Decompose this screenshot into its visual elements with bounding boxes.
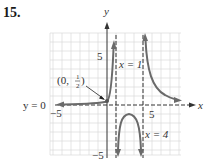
tick-pos5-x: 5 (149, 108, 155, 120)
tick-pos5-y: 5 (97, 50, 103, 62)
y-axis-arrow-icon (105, 22, 110, 29)
point-y-intercept (105, 99, 109, 103)
graph: y x y = 0 −5 5 5 −5 x = 1 x = 4 (0, 1 2 … (0, 0, 216, 162)
x-eq-4-label: x = 4 (144, 128, 169, 140)
tick-neg5-y: −5 (92, 149, 104, 161)
tick-neg5-x: −5 (50, 107, 62, 119)
svg-text:(0,: (0, (57, 74, 69, 87)
y-eq-0-label: y = 0 (23, 99, 46, 111)
x-axis-label: x (197, 99, 203, 111)
svg-text:2: 2 (76, 82, 80, 90)
x-eq-1-label: x = 1 (118, 58, 142, 70)
arrow-right-icon (174, 97, 182, 103)
y-axis (105, 22, 110, 158)
svg-text:): ) (81, 74, 85, 87)
svg-text:1: 1 (76, 73, 80, 81)
y-axis-label: y (103, 5, 109, 17)
x-axis-arrow-icon (189, 103, 196, 108)
